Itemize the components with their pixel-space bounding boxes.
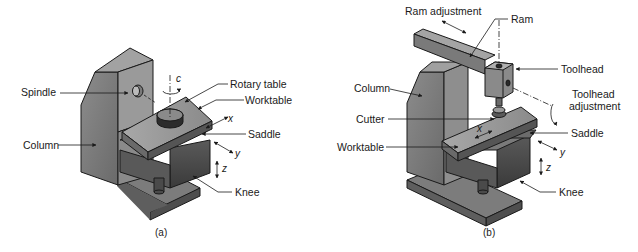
axis-x-b: x bbox=[477, 123, 482, 134]
caption-a: (a) bbox=[155, 227, 167, 239]
label-rotary-table-a: Rotary table bbox=[230, 78, 287, 90]
label-column-b: Column bbox=[354, 82, 390, 94]
label-saddle-b: Saddle bbox=[571, 127, 604, 139]
axis-c-a: c bbox=[176, 73, 181, 84]
label-spindle-a: Spindle bbox=[21, 86, 56, 98]
label-worktable-a: Worktable bbox=[245, 94, 292, 106]
label-ram-b: Ram bbox=[511, 13, 533, 25]
column-side-a bbox=[81, 72, 118, 185]
axis-x-a: x bbox=[228, 113, 233, 124]
label-column-a: Column bbox=[23, 139, 59, 151]
label-cutter-b: Cutter bbox=[356, 113, 385, 125]
label-toolhead-adjustment-line1: Toolhead bbox=[569, 88, 620, 100]
machine-b bbox=[407, 29, 537, 226]
label-worktable-b: Worktable bbox=[337, 141, 384, 153]
label-toolhead-adjustment-line2: adjustment bbox=[569, 100, 620, 112]
caption-b: (b) bbox=[483, 227, 495, 239]
knee-front-a bbox=[170, 140, 210, 188]
axis-z-a: z bbox=[222, 163, 227, 174]
label-saddle-a: Saddle bbox=[248, 128, 281, 140]
milling-machines-diagram bbox=[0, 0, 638, 252]
label-toolhead-adjustment-b: Toolhead adjustment bbox=[569, 88, 620, 112]
label-knee-a: Knee bbox=[235, 186, 260, 198]
machine-a bbox=[81, 48, 212, 220]
axis-z-b: z bbox=[546, 162, 551, 173]
label-knee-b: Knee bbox=[559, 186, 584, 198]
label-ram-adjustment-b: Ram adjustment bbox=[405, 5, 481, 17]
label-toolhead-b: Toolhead bbox=[561, 63, 604, 75]
axis-y-b: y bbox=[560, 147, 565, 158]
axis-y-a: y bbox=[235, 148, 240, 159]
column-side-b bbox=[407, 72, 444, 185]
